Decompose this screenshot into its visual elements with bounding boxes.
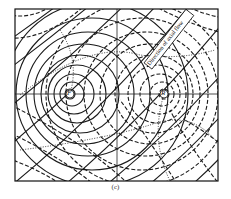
flow-net-diagram bbox=[0, 0, 231, 199]
figure-caption: (c) bbox=[0, 183, 231, 191]
pole-f-label: F bbox=[67, 89, 71, 97]
field-lines bbox=[0, 0, 231, 199]
pole-r-label: R bbox=[161, 89, 165, 97]
